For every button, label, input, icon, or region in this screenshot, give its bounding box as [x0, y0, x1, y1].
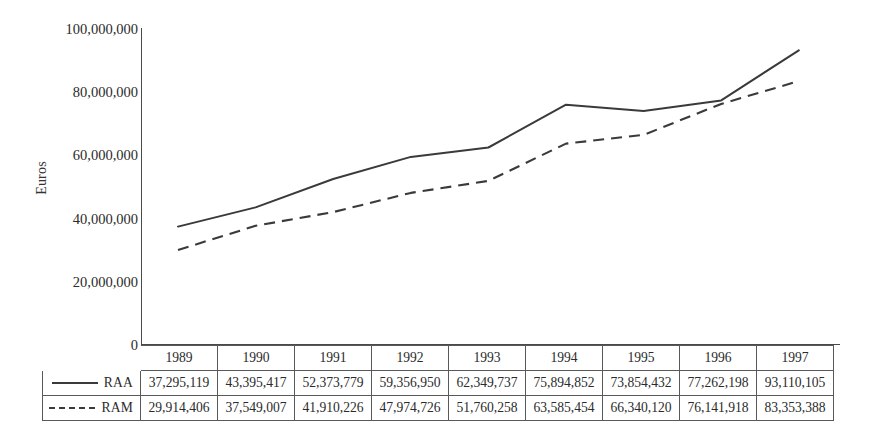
dashed-line-icon	[49, 407, 95, 409]
data-table: 1989 1990 1991 1992 1993 1994 1995 1996 …	[42, 345, 834, 421]
table-header-1993: 1993	[449, 346, 526, 371]
legend-cell-ram: RAM	[43, 396, 141, 421]
table-header-row: 1989 1990 1991 1992 1993 1994 1995 1996 …	[43, 346, 834, 371]
solid-line-icon	[52, 382, 98, 384]
table-header-1992: 1992	[372, 346, 449, 371]
legend-label-ram: RAM	[101, 400, 133, 416]
table-cell-ram-1990: 37,549,007	[218, 396, 295, 421]
table-header-1995: 1995	[603, 346, 680, 371]
table-cell-raa-1994: 75,894,852	[526, 371, 603, 396]
table-row: RAA 37,295,119 43,395,417 52,373,779 59,…	[43, 371, 834, 396]
table-header-1989: 1989	[141, 346, 218, 371]
legend-cell-raa: RAA	[43, 371, 141, 396]
table-header-1996: 1996	[680, 346, 757, 371]
series-line-ram	[178, 81, 799, 250]
series-line-raa	[178, 50, 799, 226]
table-cell-ram-1991: 41,910,226	[295, 396, 372, 421]
table-header-1994: 1994	[526, 346, 603, 371]
table-cell-ram-1994: 63,585,454	[526, 396, 603, 421]
table-header-1991: 1991	[295, 346, 372, 371]
table-cell-raa-1995: 73,854,432	[603, 371, 680, 396]
table-cell-raa-1990: 43,395,417	[218, 371, 295, 396]
table-header-1997: 1997	[757, 346, 834, 371]
table-cell-raa-1997: 93,110,105	[757, 371, 834, 396]
table-cell-raa-1991: 52,373,779	[295, 371, 372, 396]
table-cell-ram-1996: 76,141,918	[680, 396, 757, 421]
chart-figure: Euros 100,000,000 80,000,000 60,000,000 …	[0, 0, 869, 441]
table-row: RAM 29,914,406 37,549,007 41,910,226 47,…	[43, 396, 834, 421]
table-corner-cell	[43, 346, 141, 371]
legend-label-raa: RAA	[104, 375, 133, 391]
table-cell-ram-1989: 29,914,406	[141, 396, 218, 421]
table-cell-ram-1995: 66,340,120	[603, 396, 680, 421]
table-cell-raa-1992: 59,356,950	[372, 371, 449, 396]
table-cell-ram-1992: 47,974,726	[372, 396, 449, 421]
table-cell-ram-1997: 83,353,388	[757, 396, 834, 421]
table-cell-raa-1996: 77,262,198	[680, 371, 757, 396]
table-header-1990: 1990	[218, 346, 295, 371]
table-cell-ram-1993: 51,760,258	[449, 396, 526, 421]
table-cell-raa-1993: 62,349,737	[449, 371, 526, 396]
table-cell-raa-1989: 37,295,119	[141, 371, 218, 396]
